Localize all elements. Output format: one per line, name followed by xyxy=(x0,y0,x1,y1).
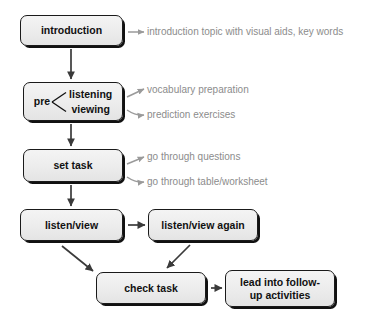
node-follow-up[interactable]: lead into follow- up activities xyxy=(225,270,335,307)
node-introduction-label: introduction xyxy=(41,24,102,36)
node-check-task[interactable]: check task xyxy=(96,272,206,304)
edge-listen-view-to-check-task xyxy=(62,246,93,271)
node-set-task[interactable]: set task xyxy=(23,149,123,182)
node-pre[interactable]: pre listening viewing xyxy=(23,82,123,121)
leader-vocabulary-note xyxy=(127,89,144,97)
node-pre-branch-viewing: viewing xyxy=(69,103,112,115)
node-check-task-label: check task xyxy=(124,282,178,294)
annotation-table-note: go through table/worksheet xyxy=(147,177,268,187)
pre-branch-group: pre listening viewing xyxy=(24,83,122,120)
node-listen-view-label: listen/view xyxy=(45,219,98,231)
node-listen-view-again-label: listen/view again xyxy=(161,219,244,231)
pre-branch-labels: listening viewing xyxy=(69,88,112,115)
node-follow-up-line-2: up activities xyxy=(250,289,311,301)
node-listen-view-again[interactable]: listen/view again xyxy=(148,209,258,241)
annotation-questions-note: go through questions xyxy=(147,152,240,162)
node-pre-label: pre xyxy=(34,95,50,107)
node-introduction[interactable]: introduction xyxy=(20,15,123,46)
annotation-prediction-note: prediction exercises xyxy=(147,110,235,120)
node-set-task-label: set task xyxy=(53,159,92,171)
leader-table-note xyxy=(127,177,144,182)
node-follow-up-line-1: lead into follow- xyxy=(240,276,320,288)
leader-prediction-note xyxy=(127,110,144,115)
leader-questions-note xyxy=(127,157,144,164)
edge-listen-again-to-check-task xyxy=(167,245,190,268)
flowchart-diagram: introduction pre listening viewing set t… xyxy=(0,0,366,328)
node-listen-view[interactable]: listen/view xyxy=(20,209,123,241)
annotation-vocabulary-note: vocabulary preparation xyxy=(147,85,249,95)
annotation-introduction-note: introduction topic with visual aids, key… xyxy=(147,27,343,37)
branch-fork-icon xyxy=(51,89,68,115)
node-follow-up-label: lead into follow- up activities xyxy=(240,276,320,301)
node-pre-branch-listening: listening xyxy=(69,88,112,100)
